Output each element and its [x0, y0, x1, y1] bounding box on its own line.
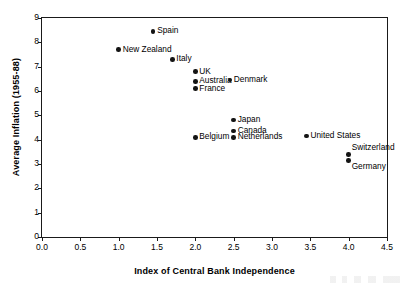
page-artifact-marks: [330, 276, 400, 283]
x-axis-tick-label: 4.0: [343, 242, 355, 253]
y-axis-tick-label: 5: [34, 109, 39, 120]
y-axis-tick-label: 8: [34, 36, 39, 47]
x-axis-tick-mark: [387, 237, 388, 241]
x-axis-tick-mark: [310, 237, 311, 241]
x-axis-tick-label: 0.0: [36, 242, 48, 253]
data-point-marker: [193, 135, 198, 140]
x-axis-tick-label: 0.5: [74, 242, 86, 253]
data-point-marker: [346, 152, 351, 157]
data-point-marker: [231, 118, 236, 123]
y-axis-tick-label: 3: [34, 158, 39, 169]
y-axis-tick-label: 4: [34, 134, 39, 145]
data-point-label: Germany: [352, 162, 386, 171]
y-axis-tick-label: 9: [34, 12, 39, 23]
data-point-label: France: [199, 84, 225, 93]
x-axis-tick-mark: [272, 237, 273, 241]
x-axis-tick-mark: [157, 237, 158, 241]
data-point-marker: [231, 129, 236, 134]
data-point-label: Denmark: [234, 75, 268, 84]
x-axis-tick-label: 3.0: [266, 242, 278, 253]
data-point-marker: [231, 135, 236, 140]
data-point-marker: [304, 134, 309, 139]
x-axis-tick-mark: [195, 237, 196, 241]
data-point-label: United States: [311, 131, 361, 140]
data-point-marker: [193, 69, 198, 74]
data-point-label: Belgium: [199, 132, 229, 141]
data-point-marker: [151, 29, 156, 34]
data-point-marker: [170, 57, 175, 62]
data-point-label: Switzerland: [352, 143, 395, 152]
y-axis-tick-label: 7: [34, 61, 39, 72]
y-axis-tick-label: 0: [34, 231, 39, 242]
x-axis-tick-mark: [234, 237, 235, 241]
y-axis-tick-label: 6: [34, 85, 39, 96]
x-axis-tick-label: 1.5: [151, 242, 163, 253]
x-axis-tick-label: 2.5: [228, 242, 240, 253]
data-point-marker: [116, 47, 121, 52]
x-axis-tick-label: 2.0: [189, 242, 201, 253]
x-axis-tick-mark: [80, 237, 81, 241]
x-axis-tick-label: 4.5: [381, 242, 393, 253]
scatter-chart-figure: 01234567890.00.51.01.52.02.53.03.54.04.5…: [0, 0, 409, 288]
data-point-marker: [346, 158, 351, 163]
data-point-marker: [193, 79, 198, 84]
data-point-marker: [193, 86, 198, 91]
data-point-label: UK: [199, 67, 211, 76]
plot-area: 01234567890.00.51.01.52.02.53.03.54.04.5…: [41, 17, 388, 238]
data-point-label: Japan: [238, 115, 261, 124]
data-point-label: Spain: [157, 26, 178, 35]
x-axis-tick-mark: [42, 237, 43, 241]
x-axis-title: Index of Central Bank Independence: [41, 266, 388, 276]
data-point-label: Italy: [176, 54, 191, 63]
y-axis-tick-label: 2: [34, 182, 39, 193]
data-point-label: New Zealand: [123, 45, 172, 54]
data-point-label: Netherlands: [238, 132, 283, 141]
x-axis-tick-label: 1.0: [113, 242, 125, 253]
x-axis-tick-mark: [349, 237, 350, 241]
x-axis-tick-label: 3.5: [304, 242, 316, 253]
y-axis-title: Average Inflation (1955-88): [11, 37, 21, 197]
x-axis-tick-mark: [119, 237, 120, 241]
y-axis-tick-label: 1: [34, 207, 39, 218]
